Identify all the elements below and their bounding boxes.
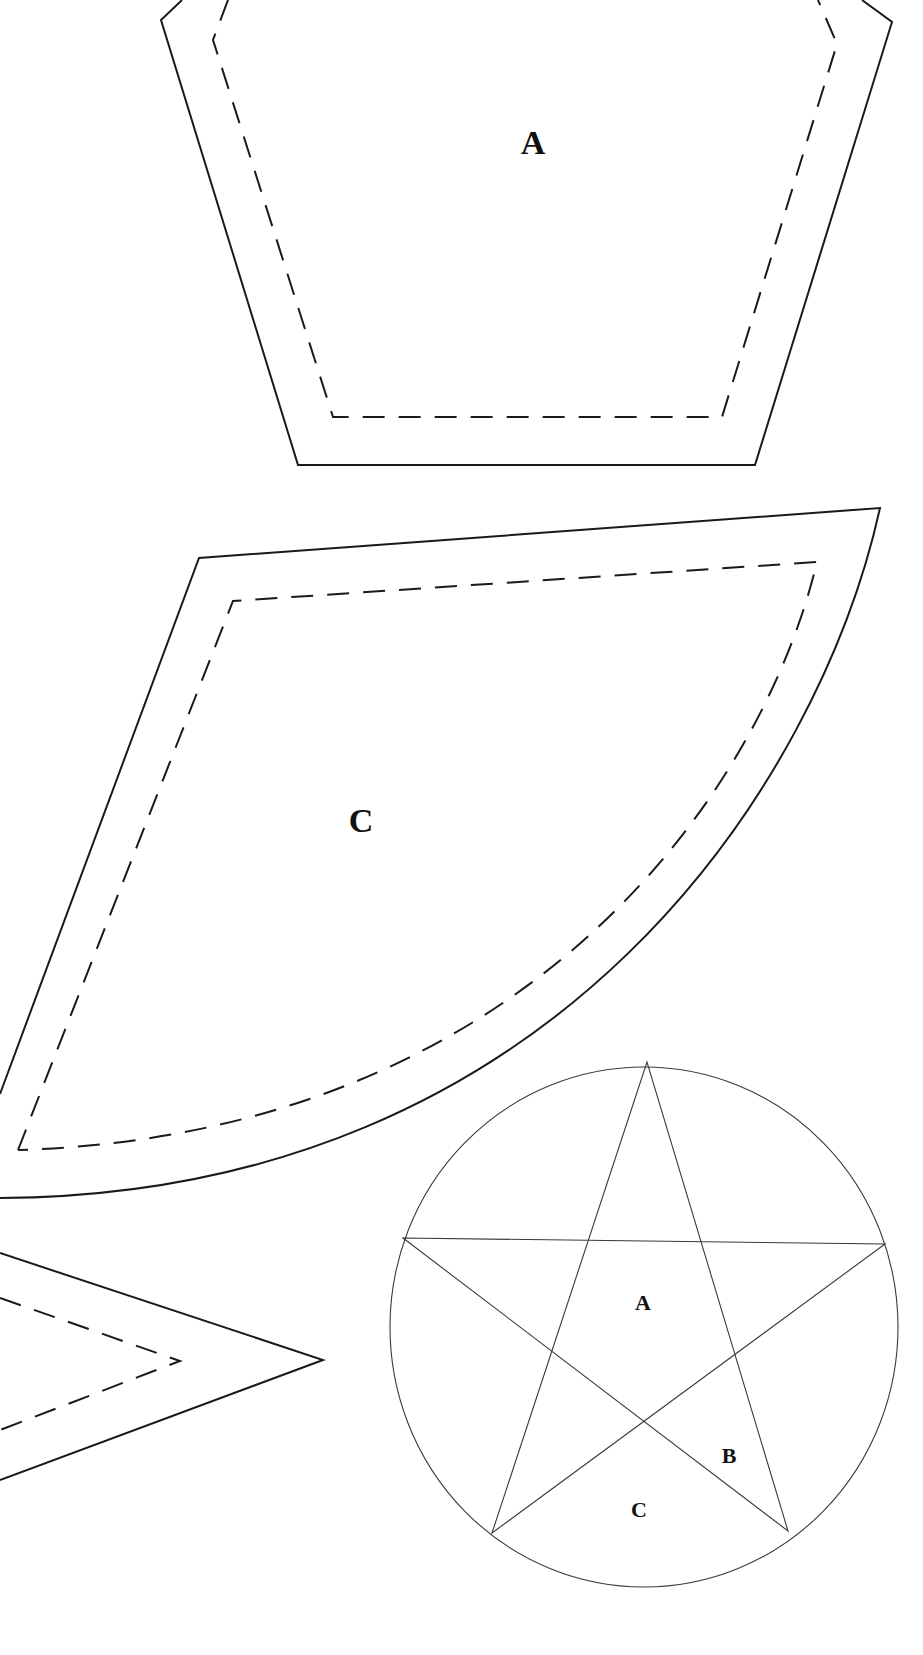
cut-line-b xyxy=(0,1253,323,1480)
sewing-line-a xyxy=(213,0,837,417)
template-piece-b xyxy=(0,1253,323,1480)
star-key-diagram: A B C xyxy=(390,1062,898,1587)
sewing-line-b xyxy=(0,1298,180,1430)
label-c: C xyxy=(349,802,374,839)
cut-line-c xyxy=(0,508,880,1198)
template-piece-a: A xyxy=(161,0,892,465)
key-label-b: B xyxy=(722,1443,737,1468)
key-label-a: A xyxy=(635,1290,651,1315)
label-a: A xyxy=(521,124,546,161)
pattern-sheet: A C A B C xyxy=(0,0,923,1655)
key-label-c: C xyxy=(631,1497,647,1522)
sewing-line-c xyxy=(18,562,817,1150)
template-piece-c: C xyxy=(0,508,880,1198)
cut-line-a xyxy=(161,0,892,465)
